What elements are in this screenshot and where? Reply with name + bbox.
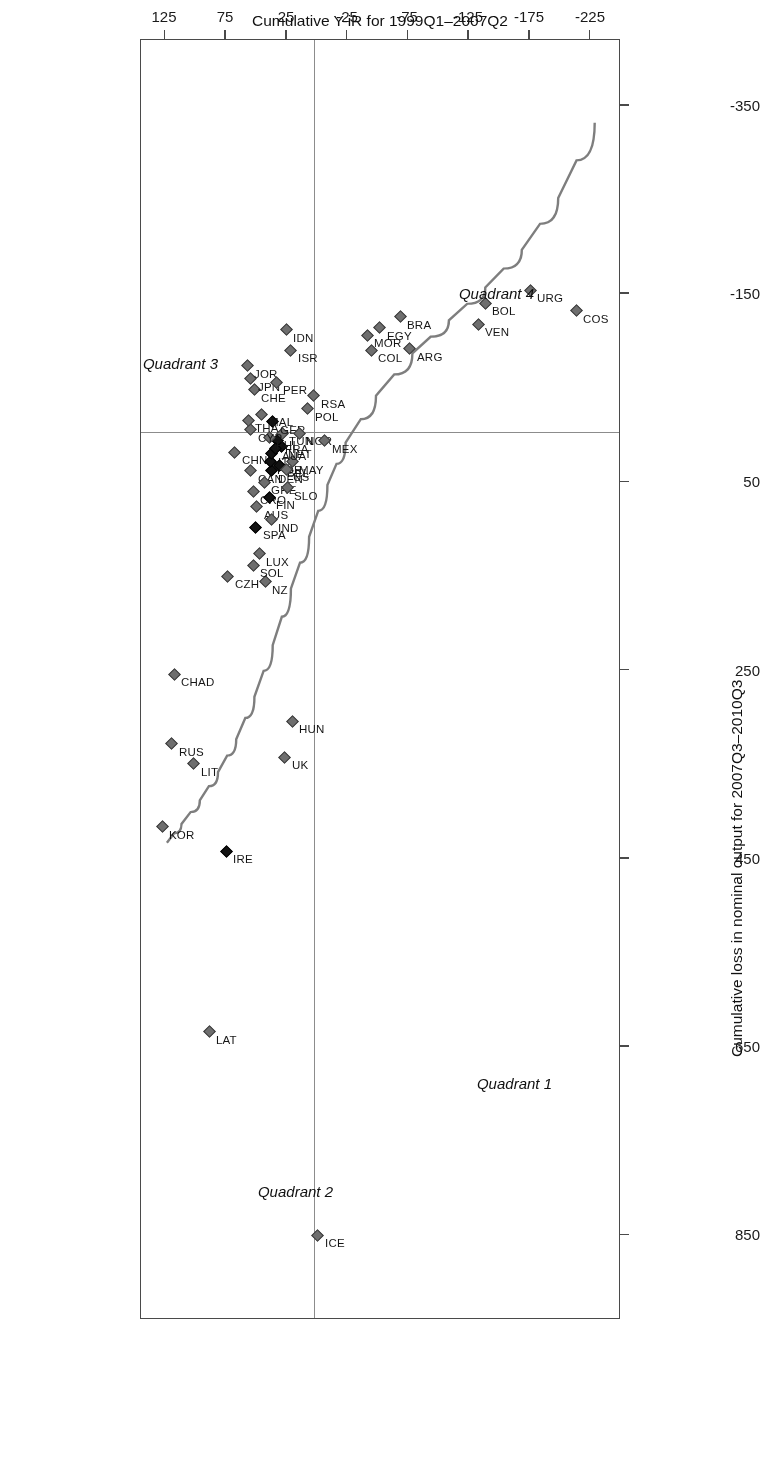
- x-axis-title: Cumulative Y-iR for 1999Q1–2007Q2: [170, 12, 590, 30]
- scatter-chart-figure: ICELATIRELITRUSKORCHADUKHUNNZLUXSOLCZHSP…: [0, 0, 760, 1477]
- y-tick-label: 50: [636, 473, 760, 490]
- quadrant-label: Quadrant 4: [459, 285, 534, 302]
- data-point-label: RUS: [179, 747, 204, 759]
- data-point-label: EGY: [387, 331, 412, 343]
- x-tick-mark: [346, 30, 348, 39]
- quadrant-label: Quadrant 2: [258, 1183, 333, 1200]
- data-point-label: COL: [378, 353, 402, 365]
- data-point-label: ISR: [298, 353, 318, 365]
- quadrant-label: Quadrant 1: [477, 1075, 552, 1092]
- x-tick-mark: [285, 30, 287, 39]
- data-point-label: MEX: [332, 444, 358, 456]
- y-tick-mark: [620, 669, 629, 671]
- data-point-label: FIN: [276, 500, 295, 512]
- plot-area: ICELATIRELITRUSKORCHADUKHUNNZLUXSOLCZHSP…: [140, 39, 620, 1319]
- y-tick-label: 250: [636, 661, 760, 678]
- y-tick-mark: [620, 104, 629, 106]
- data-point-label: SOL: [260, 568, 284, 580]
- y-axis-title: Cumulative loss in nominal output for 20…: [728, 680, 746, 1057]
- data-point-label: SLO: [294, 491, 318, 503]
- x-tick-mark: [164, 30, 166, 39]
- y-tick-label: -350: [636, 96, 760, 113]
- data-point-label: BRA: [407, 320, 431, 332]
- data-point-label: HUN: [299, 724, 325, 736]
- data-point-label: AUA: [282, 451, 306, 463]
- data-point-label: PER: [283, 385, 307, 397]
- y-tick-mark: [620, 292, 629, 294]
- data-point-label: VEN: [485, 327, 509, 339]
- data-point-label: IDN: [293, 333, 313, 345]
- y-tick-mark: [620, 1234, 629, 1236]
- data-point-label: ICE: [325, 1238, 345, 1250]
- data-point-label: CZH: [235, 579, 259, 591]
- x-tick-mark: [407, 30, 409, 39]
- data-point-label: LIT: [201, 767, 218, 779]
- data-point-label: BOL: [492, 306, 516, 318]
- data-point-label: IND: [278, 523, 298, 535]
- y-tick-mark: [620, 1045, 629, 1047]
- x-tick-mark: [467, 30, 469, 39]
- x-tick-mark: [528, 30, 530, 39]
- y-tick-mark: [620, 481, 629, 483]
- quadrant-label: Quadrant 3: [143, 355, 218, 372]
- data-point-label: MAY: [299, 465, 324, 477]
- data-point-label: LAT: [216, 1035, 237, 1047]
- data-point-label: URG: [537, 293, 563, 305]
- data-point-label: THA: [255, 423, 279, 435]
- data-point-label: COS: [583, 314, 609, 326]
- data-point-label: IRE: [234, 854, 254, 866]
- y-tick-label: -150: [636, 285, 760, 302]
- data-point-label: CHAD: [181, 677, 214, 689]
- x-tick-mark: [589, 30, 591, 39]
- data-point-label: NZ: [272, 585, 288, 597]
- data-point-label: UK: [292, 760, 308, 772]
- data-point-label: ARG: [417, 352, 443, 364]
- rotated-figure-wrapper: ICELATIRELITRUSKORCHADUKHUNNZLUXSOLCZHSP…: [0, 0, 760, 1477]
- y-tick-mark: [620, 857, 629, 859]
- data-point-label: POL: [315, 412, 339, 424]
- x-tick-mark: [224, 30, 226, 39]
- data-point-label: RSA: [321, 399, 345, 411]
- data-point-label: KOR: [169, 830, 195, 842]
- y-tick-label: 850: [636, 1226, 760, 1243]
